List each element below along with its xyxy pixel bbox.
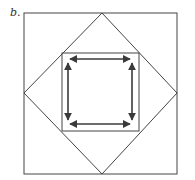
double-arrows <box>68 59 132 124</box>
outer-square <box>24 13 177 174</box>
nested-squares-diagram <box>0 0 195 180</box>
inner-square <box>62 53 139 131</box>
diamond <box>24 13 177 174</box>
